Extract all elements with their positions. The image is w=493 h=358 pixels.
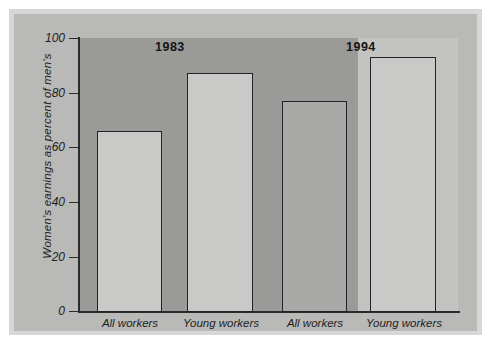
bar-1994-all-workers [282, 101, 347, 312]
y-tick-label-0: 0 [31, 304, 65, 318]
x-label-young-workers-1994: Young workers [354, 317, 454, 329]
x-label-all-workers-1994: All workers [270, 317, 360, 329]
bar-1994-young-workers [370, 57, 436, 312]
bar-chart-figure: 100 80 60 40 20 0 Women's earnings as pe… [0, 0, 493, 358]
x-label-young-workers-1983: Young workers [171, 317, 271, 329]
era-label-1994: 1994 [346, 40, 376, 54]
bar-1983-young-workers [187, 73, 253, 312]
y-axis-title: Women's earnings as percent of men's [41, 31, 53, 281]
era-label-1983: 1983 [155, 40, 185, 54]
y-axis-line [78, 37, 80, 313]
cropped-caption-sliver [14, 347, 244, 353]
x-label-all-workers-1983: All workers [85, 317, 175, 329]
bar-1983-all-workers [97, 131, 162, 312]
